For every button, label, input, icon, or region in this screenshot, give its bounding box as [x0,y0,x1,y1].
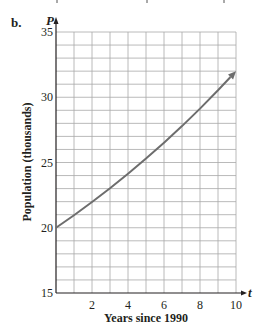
y-tick-label: 30 [41,90,53,104]
x-axis-var: t [248,285,252,300]
previous-figure-tick-marks [57,0,224,3]
x-axis-label: Years since 1990 [104,311,188,325]
y-tick-label: 15 [41,286,53,300]
population-curve [56,77,231,228]
x-axis-arrow-icon [241,291,247,296]
x-tick-label: 4 [125,298,131,312]
tick-labels: 2468101520253035 [41,25,242,312]
x-tick-label: 8 [197,298,203,312]
y-axis-label: Population (thousands) [20,102,34,221]
y-axis-arrow-icon [54,17,59,24]
y-tick-label: 25 [41,156,53,170]
population-chart: b. 2468101520253035 P t Years since 1990… [0,0,267,336]
x-tick-label: 10 [230,298,242,312]
grid-lines [56,32,236,293]
part-label: b. [11,15,21,30]
y-axis-var: P [46,13,55,28]
y-tick-label: 20 [41,221,53,235]
x-tick-label: 6 [161,298,167,312]
x-tick-label: 2 [89,298,95,312]
